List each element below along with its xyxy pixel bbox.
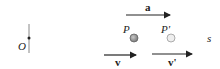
acceleration-label: a	[145, 2, 151, 13]
velocity-prime-label: v'	[168, 57, 177, 68]
point-p-label: P	[123, 24, 130, 35]
rectilinear-motion-diagram	[0, 0, 220, 69]
point-p-prime-label: P'	[161, 24, 170, 35]
velocity-label: v	[115, 57, 121, 68]
point-p	[130, 34, 138, 42]
point-p-prime	[167, 34, 175, 42]
origin-label: O	[18, 41, 26, 52]
axis-label: s	[207, 33, 211, 44]
